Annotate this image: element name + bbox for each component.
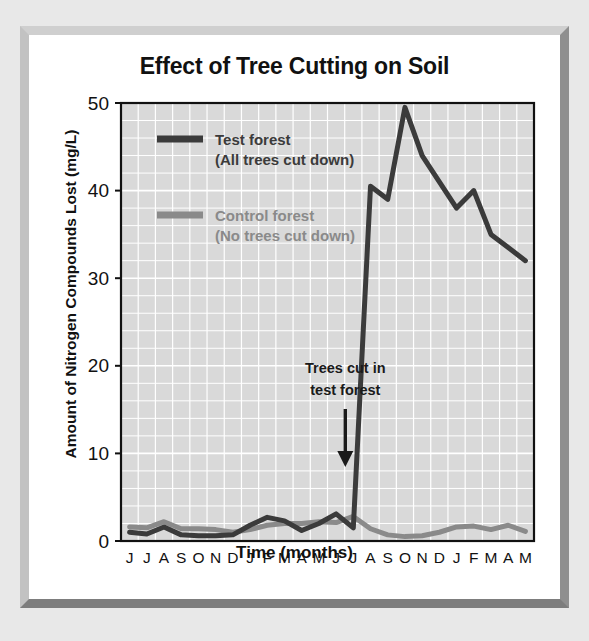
y-tick-label: 0 (98, 531, 109, 552)
x-tick-label: F (263, 549, 272, 566)
legend-label-control-forest: Control forest (215, 207, 314, 224)
x-tick-label: N (210, 549, 221, 566)
y-tick-label: 30 (88, 268, 109, 289)
x-tick-label: A (297, 549, 308, 566)
x-tick-label: N (417, 549, 428, 566)
x-tick-label: M (312, 549, 325, 566)
x-tick-label: D (227, 549, 238, 566)
x-tick-label: J (453, 549, 461, 566)
x-tick-label: O (399, 549, 411, 566)
x-tick-label: S (176, 549, 186, 566)
x-tick-label: A (365, 549, 376, 566)
beveled-frame: Effect of Tree Cutting on Soil Amount of… (20, 26, 569, 608)
legend-sublabel-test-forest: (All trees cut down) (215, 151, 354, 168)
annotation-line-1: Trees cut in (305, 360, 386, 376)
y-tick-label: 50 (88, 93, 109, 114)
x-tick-label: M (519, 549, 532, 566)
legend-sublabel-control-forest: (No trees cut down) (215, 227, 355, 244)
figure-canvas: Effect of Tree Cutting on Soil Amount of… (29, 35, 560, 599)
x-tick-label: O (192, 549, 204, 566)
figure-root: Effect of Tree Cutting on Soil Amount of… (0, 0, 589, 641)
x-tick-label: M (278, 549, 291, 566)
x-tick-label: J (246, 549, 254, 566)
x-tick-label: J (332, 549, 340, 566)
x-tick-label: J (143, 549, 151, 566)
x-tick-label: J (126, 549, 134, 566)
x-tick-label: A (503, 549, 514, 566)
y-tick-label: 20 (88, 355, 109, 376)
x-tick-label: D (434, 549, 445, 566)
line-chart-plot: 01020304050JJASONDJFMAMJJASONDJFMAMTest … (29, 35, 560, 599)
legend-label-test-forest: Test forest (215, 131, 291, 148)
x-tick-label: F (469, 549, 478, 566)
y-tick-label: 40 (88, 180, 109, 201)
x-tick-label: J (349, 549, 357, 566)
y-tick-label: 10 (88, 443, 109, 464)
x-tick-label: A (159, 549, 170, 566)
x-tick-label: S (383, 549, 393, 566)
x-tick-label: M (485, 549, 498, 566)
annotation-line-2: test forest (310, 382, 380, 398)
